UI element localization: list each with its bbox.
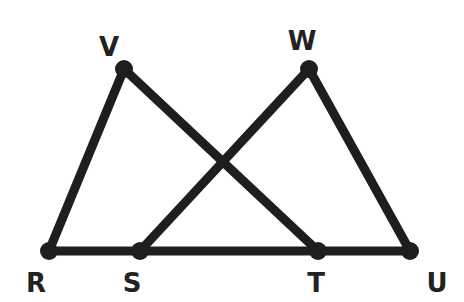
segment-wu [309, 69, 410, 251]
label-u: U [426, 268, 447, 298]
point-t [309, 242, 327, 260]
geometry-diagram: V W R S T U [0, 0, 464, 302]
label-w: W [288, 26, 317, 56]
point-v [115, 60, 133, 78]
label-t: T [307, 268, 325, 298]
label-s: S [123, 268, 142, 298]
point-r [40, 242, 58, 260]
segments [49, 69, 410, 251]
point-u [401, 242, 419, 260]
label-v: V [99, 32, 119, 62]
point-s [131, 242, 149, 260]
label-r: R [26, 268, 46, 298]
segment-rv [49, 69, 124, 251]
point-w [300, 60, 318, 78]
